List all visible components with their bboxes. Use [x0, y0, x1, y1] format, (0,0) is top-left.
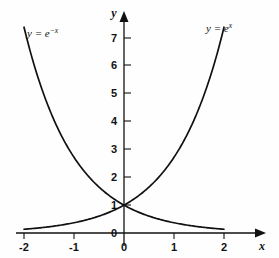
x-tick-label-neg1: -1	[69, 241, 79, 253]
curve-label-left-base: y = e	[26, 27, 50, 39]
x-axis-arrow-icon	[255, 229, 266, 238]
curve-label-right-exponent: x	[228, 21, 233, 30]
y-tick-label-5: 5	[111, 87, 117, 99]
y-tick-label-4: 4	[111, 115, 118, 127]
y-tick-label-7: 7	[111, 32, 117, 44]
x-tick-label-neg2: -2	[19, 241, 29, 253]
y-tick-label-0: 0	[111, 227, 117, 239]
y-tick-label-6: 6	[111, 59, 117, 71]
curve-label-right-base: y = e	[205, 22, 229, 34]
curve-label-e-to-the-minus-x: y = e−x	[26, 26, 59, 39]
x-axis-label: x	[258, 239, 265, 253]
y-tick-label-2: 2	[111, 171, 117, 183]
x-tick-label-0: 0	[121, 241, 127, 253]
curve-label-e-to-the-x: y = ex	[205, 21, 233, 34]
curve-label-left-exponent: −x	[50, 26, 59, 35]
y-axis-arrow-icon	[120, 11, 129, 22]
x-tick-label-1: 1	[171, 241, 177, 253]
exponential-functions-figure: -2 -1 0 1 2 0 1 2 3 4 5 6 7 y x y = e−x …	[0, 0, 279, 258]
x-tick-label-2: 2	[221, 241, 227, 253]
y-tick-label-3: 3	[111, 143, 117, 155]
y-tick-label-1: 1	[111, 199, 117, 211]
plot-area: -2 -1 0 1 2 0 1 2 3 4 5 6 7 y x y = e−x …	[0, 0, 279, 258]
y-axis-label: y	[109, 6, 117, 20]
